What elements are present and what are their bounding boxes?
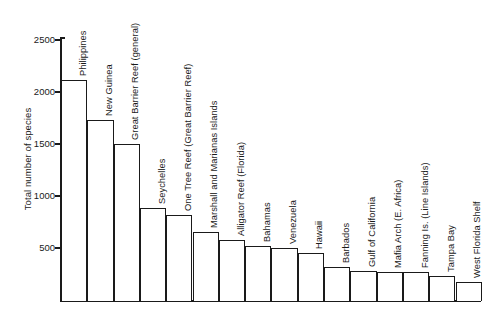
bar-label: Philippines [78, 30, 88, 76]
bar [140, 208, 166, 301]
bar-label: Seychelles [157, 159, 167, 204]
bar-label: Gulf of California [367, 197, 377, 267]
bar [219, 240, 245, 301]
bar-label: Mafia Arch (E. Africa) [393, 179, 403, 267]
y-tick-label: 2500 [23, 35, 55, 45]
y-tick-label: 2000 [23, 87, 55, 97]
bar-label: Hawaii [314, 221, 324, 249]
bar [245, 246, 271, 301]
bar-label: Barbados [341, 223, 351, 263]
y-tick-label-wrap: 1500 [0, 139, 55, 149]
bar [166, 215, 192, 301]
bar [87, 120, 113, 301]
bar-label: Bahamas [262, 202, 272, 242]
bar-label: Venezuela [288, 200, 298, 244]
y-tick-label: 1500 [23, 139, 55, 149]
bar [271, 248, 297, 301]
bar [350, 271, 376, 301]
y-tick-mark [55, 39, 61, 41]
bar [193, 232, 219, 301]
bar-label: Tampa Bay [446, 225, 456, 272]
bar-label: Marshall and Marianas Islands [209, 101, 219, 229]
bar [456, 282, 482, 301]
y-tick-label-wrap: 2000 [0, 87, 55, 97]
bar [403, 272, 429, 301]
y-tick-label-wrap: 500 [0, 243, 55, 253]
bar [61, 80, 87, 301]
bar [324, 267, 350, 301]
bar-label: One Tree Reef (Great Barrier Reef) [183, 63, 193, 210]
bar [377, 272, 403, 301]
bar-label: Alligator Reef (Florida) [236, 141, 246, 235]
bar-chart-figure: Total number of species 5001000150020002… [0, 0, 491, 318]
bar-label: West Florida Shelf [472, 202, 482, 279]
bar-label: New Guinea [104, 64, 114, 116]
bar-label: Fanning Is. (Line Islands) [420, 162, 430, 268]
y-tick-label: 500 [23, 243, 55, 253]
y-tick-label: 1000 [23, 191, 55, 201]
bar [429, 276, 455, 301]
bar [298, 253, 324, 301]
y-tick-label-wrap: 2500 [0, 35, 55, 45]
bar [114, 144, 140, 301]
bar-label: Great Barrier Reef (general) [130, 23, 140, 140]
y-tick-label-wrap: 1000 [0, 191, 55, 201]
y-axis-label: Total number of species [22, 0, 38, 318]
